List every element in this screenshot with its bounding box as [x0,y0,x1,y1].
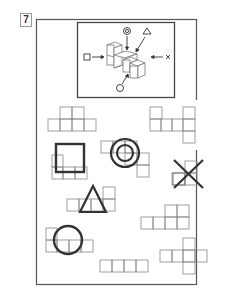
view-net-circle [46,226,93,254]
view-net-5 [160,238,207,274]
view-net-3 [141,205,189,229]
view-net-square [52,144,87,179]
nets-layer [0,0,231,299]
view-net-triangle [67,186,115,212]
square-symbol [56,144,84,172]
x-symbol [174,160,203,188]
worksheet-page: 7 [0,0,231,299]
view-net-4 [100,260,148,272]
view-net-x [172,160,203,188]
